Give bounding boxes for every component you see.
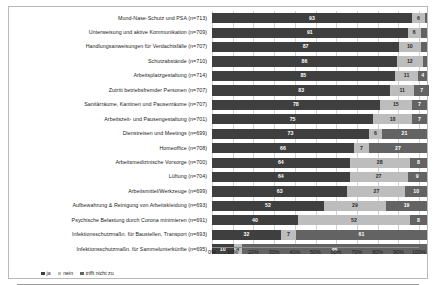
stacked-bar: 66727 — [212, 143, 427, 153]
table-row: Dienstreisen und Meetings (n=699)73621 — [9, 127, 427, 141]
chart-legend: janeintrifft nicht zu — [41, 271, 114, 276]
category-label: Dienstreisen und Meetings (n=699) — [9, 131, 212, 136]
bar-segment-nein: 10 — [399, 42, 421, 52]
category-label: Homeoffice (n=708) — [9, 146, 212, 151]
bar-segment-trifft-nicht-zu — [423, 56, 427, 66]
bar-segment-nein: 12 — [397, 56, 423, 66]
bar-value-label: 7 — [287, 232, 290, 237]
table-row: Psychische Belastung durch Corona minimi… — [9, 213, 427, 227]
stacked-bar: 78157 — [212, 100, 427, 110]
legend-item[interactable]: ja — [41, 271, 51, 276]
table-row: Infektionsschutzmaßn. für Baustellen, Tr… — [9, 228, 427, 242]
x-tick-label: 70% — [351, 250, 362, 255]
bar-segment-trifft-nicht-zu — [421, 42, 427, 52]
bar-segment-ja: 52 — [212, 201, 324, 211]
x-tick-label: 20% — [248, 250, 259, 255]
table-row: Arbeitszeit- und Pausengestaltung (n=701… — [9, 112, 427, 126]
bar-value-label: 10 — [407, 44, 413, 49]
legend-label: trifft nicht zu — [86, 271, 114, 276]
legend-label: ja — [47, 271, 51, 276]
bar-value-label: 7 — [418, 102, 421, 107]
chart-frame: Mund-Nase-Schutz und PSA (n=713)936Unter… — [8, 6, 428, 279]
stacked-bar: 8612 — [212, 56, 427, 66]
table-row: Arbeitsmedizinische Vorsorge (n=700)6428… — [9, 155, 427, 169]
table-row: Aufbewahrung & Reinigung von Arbeitsklei… — [9, 199, 427, 213]
legend-swatch-icon — [41, 272, 45, 276]
category-label: Schutzabstände (n=710) — [9, 59, 212, 64]
bar-segment-trifft-nicht-zu: 7 — [414, 85, 429, 95]
x-tick-label: 100% — [412, 250, 426, 255]
table-row: Schutzabstände (n=710)8612 — [9, 54, 427, 68]
table-row: Zutritt betriebsfremder Personen (n=707)… — [9, 83, 427, 97]
legend-swatch-icon — [80, 272, 84, 276]
bar-segment-trifft-nicht-zu: 4 — [418, 71, 427, 81]
table-row: Homeoffice (n=708)66727 — [9, 141, 427, 155]
bar-segment-trifft-nicht-zu: 8 — [410, 158, 427, 168]
stacked-bar: 522919 — [212, 201, 427, 211]
bar-segment-nein: 7 — [354, 143, 369, 153]
bar-segment-ja: 73 — [212, 129, 369, 139]
stacked-bar: 73621 — [212, 129, 427, 139]
legend-item[interactable]: nein — [58, 271, 73, 276]
bar-segment-trifft-nicht-zu: 8 — [410, 215, 427, 225]
bar-segment-trifft-nicht-zu — [421, 28, 427, 38]
bar-segment-nein: 6 — [408, 28, 421, 38]
bar-segment-nein: 27 — [350, 172, 408, 182]
bar-segment-ja: 66 — [212, 143, 354, 153]
bar-segment-trifft-nicht-zu: 10 — [405, 186, 427, 196]
bar-value-label: 87 — [303, 44, 309, 49]
stacked-bar: 916 — [212, 28, 427, 38]
bar-value-label: 9 — [416, 174, 419, 179]
bar-segment-nein: 11 — [395, 71, 419, 81]
bar-segment-trifft-nicht-zu: 27 — [369, 143, 427, 153]
bar-segment-ja: 83 — [212, 85, 390, 95]
category-label: Arbeitsmedizinische Vorsorge (n=700) — [9, 160, 212, 165]
bar-rows: Mund-Nase-Schutz und PSA (n=713)936Unter… — [9, 11, 427, 256]
bar-value-label: 10 — [413, 189, 419, 194]
bar-segment-nein: 18 — [373, 114, 412, 124]
x-tick-label: 30% — [269, 250, 280, 255]
bar-value-label: 63 — [277, 189, 283, 194]
category-label: Infektionsschutzmaßn. für Sammelunterkün… — [9, 247, 212, 252]
bar-value-label: 21 — [402, 131, 408, 136]
bar-segment-trifft-nicht-zu — [425, 13, 427, 23]
bar-value-label: 27 — [395, 146, 401, 151]
bar-value-label: 7 — [360, 146, 363, 151]
table-row: Mund-Nase-Schutz und PSA (n=713)936 — [9, 11, 427, 25]
category-label: Handlungsanweisungen für Verdachtsfälle … — [9, 44, 212, 49]
category-label: Mund-Nase-Schutz und PSA (n=713) — [9, 16, 212, 21]
category-label: Arbeitsplatzgestaltung (n=714) — [9, 73, 212, 78]
stacked-bar: 936 — [212, 13, 427, 23]
category-label: Psychische Belastung durch Corona minimi… — [9, 218, 212, 223]
bar-segment-trifft-nicht-zu: 7 — [412, 114, 427, 124]
bar-value-label: 15 — [393, 102, 399, 107]
bar-segment-trifft-nicht-zu: 19 — [386, 201, 427, 211]
x-tick-label: 50% — [310, 250, 321, 255]
category-label: Arbeitszeit- und Pausengestaltung (n=701… — [9, 117, 212, 122]
bar-segment-ja: 75 — [212, 114, 373, 124]
table-row: Handlungsanweisungen für Verdachtsfälle … — [9, 40, 427, 54]
bar-value-label: 73 — [288, 131, 294, 136]
stacked-bar: 632710 — [212, 186, 427, 196]
stacked-bar-chart: Mund-Nase-Schutz und PSA (n=713)936Unter… — [0, 0, 436, 285]
bar-segment-ja: 64 — [212, 158, 350, 168]
legend-item[interactable]: trifft nicht zu — [80, 271, 113, 276]
bar-segment-trifft-nicht-zu: 9 — [408, 172, 427, 182]
bar-segment-nein: 29 — [324, 201, 386, 211]
table-row: Arbeitsplatzgestaltung (n=714)85114 — [9, 69, 427, 83]
bar-value-label: 8 — [417, 218, 420, 223]
bar-value-label: 64 — [278, 174, 284, 179]
bar-segment-trifft-nicht-zu: 61 — [296, 230, 427, 240]
bar-segment-ja: 93 — [212, 13, 412, 23]
x-tick-label: 10% — [227, 250, 238, 255]
bar-value-label: 11 — [400, 88, 405, 93]
bar-value-label: 64 — [278, 160, 284, 165]
bar-value-label: 66 — [280, 146, 286, 151]
table-row: Sanitärräume, Kantinen und Pausenräume (… — [9, 98, 427, 112]
legend-label: nein — [63, 271, 73, 276]
bar-segment-nein: 11 — [390, 85, 414, 95]
bar-segment-nein: 28 — [350, 158, 410, 168]
bar-value-label: 6 — [417, 16, 420, 21]
stacked-bar: 64279 — [212, 172, 427, 182]
bar-value-label: 4 — [421, 73, 424, 78]
